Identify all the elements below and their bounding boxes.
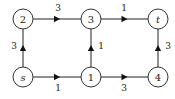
arrowhead-icon xyxy=(155,45,161,51)
edge-1-to-4: 3 xyxy=(101,74,148,93)
edge-weight-label: 1 xyxy=(98,41,104,51)
arrowhead-icon xyxy=(54,16,60,22)
node-4: 4 xyxy=(148,67,168,87)
node-3: 3 xyxy=(81,9,101,29)
node-label: 1 xyxy=(88,72,94,83)
arrowhead-icon xyxy=(88,45,94,51)
node-1: 1 xyxy=(81,67,101,87)
node-2: 2 xyxy=(13,9,33,29)
node-label: 4 xyxy=(155,72,161,83)
node-label: 2 xyxy=(20,14,26,25)
edge-weight-label: 1 xyxy=(121,3,127,13)
edge-4-to-t: 3 xyxy=(155,29,171,67)
edge-1-to-3: 1 xyxy=(88,29,104,67)
edge-weight-label: 3 xyxy=(11,41,17,51)
graph-diagram: 3131313 23ts14 xyxy=(0,0,175,99)
edge-s-to-2: 3 xyxy=(11,29,26,67)
node-label: 3 xyxy=(88,14,94,25)
arrowhead-icon xyxy=(122,16,128,22)
node-s: s xyxy=(13,67,33,87)
edge-s-to-1: 1 xyxy=(33,74,81,93)
edge-2-to-3: 3 xyxy=(33,3,81,22)
arrowhead-icon xyxy=(122,74,128,80)
edge-weight-label: 3 xyxy=(121,83,127,93)
arrowhead-icon xyxy=(54,74,60,80)
node-t: t xyxy=(148,9,168,29)
node-label: s xyxy=(20,72,25,83)
edge-weight-label: 3 xyxy=(55,3,61,13)
arrowhead-icon xyxy=(20,45,26,51)
edge-weight-label: 1 xyxy=(55,83,61,93)
edge-weight-label: 3 xyxy=(165,41,171,51)
edge-3-to-t: 1 xyxy=(101,3,148,22)
